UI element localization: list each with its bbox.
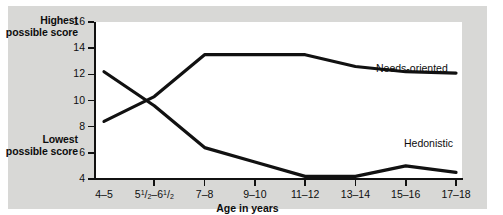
y-tick-6 (88, 152, 94, 154)
x-axis-title: Age in years (8, 202, 487, 214)
x-tick-label-4: 11–12 (291, 188, 319, 200)
x-tick-4 (304, 180, 306, 186)
figure-panel: Highest possible score Lowest possible s… (8, 6, 487, 209)
y-tick-label-10: 10 (63, 94, 85, 106)
y-tick-label-14: 14 (63, 41, 85, 53)
series-label-hedonistic: Hedonistic (404, 137, 453, 149)
line-hedonistic (104, 72, 456, 177)
x-tick-label-7: 17–18 (441, 188, 470, 200)
x-tick-label-2: 7–8 (196, 188, 214, 200)
y-tick-label-8: 8 (63, 120, 85, 132)
y-tick-14 (88, 47, 94, 49)
y-tick-label-16: 16 (63, 15, 85, 27)
x-tick-label-1: 51/2–61/2 (135, 188, 174, 200)
x-tick-3 (254, 180, 256, 186)
series-lines (94, 22, 462, 179)
y-tick-10 (88, 100, 94, 102)
x-tick-2 (204, 180, 206, 186)
y-tick-label-12: 12 (63, 67, 85, 79)
x-tick-label-3: 9–10 (243, 188, 266, 200)
series-label-needs-oriented: Needs-oriented (376, 62, 448, 74)
x-tick-label-6: 15–16 (391, 188, 420, 200)
x-tick-6 (405, 180, 407, 186)
y-tick-16 (88, 21, 94, 23)
y-axis-line (94, 22, 96, 180)
x-tick-7 (455, 180, 457, 186)
x-axis-line (94, 178, 463, 180)
y-tick-12 (88, 74, 94, 76)
y-tick-4 (88, 178, 94, 180)
plot-area (94, 22, 462, 179)
y-tick-label-6: 6 (63, 146, 85, 158)
y-tick-label-4: 4 (63, 172, 85, 184)
y-tick-8 (88, 126, 94, 128)
x-tick-label-5: 13–14 (341, 188, 370, 200)
x-tick-label-0: 4–5 (95, 188, 113, 200)
x-tick-1 (153, 180, 155, 186)
x-tick-5 (355, 180, 357, 186)
